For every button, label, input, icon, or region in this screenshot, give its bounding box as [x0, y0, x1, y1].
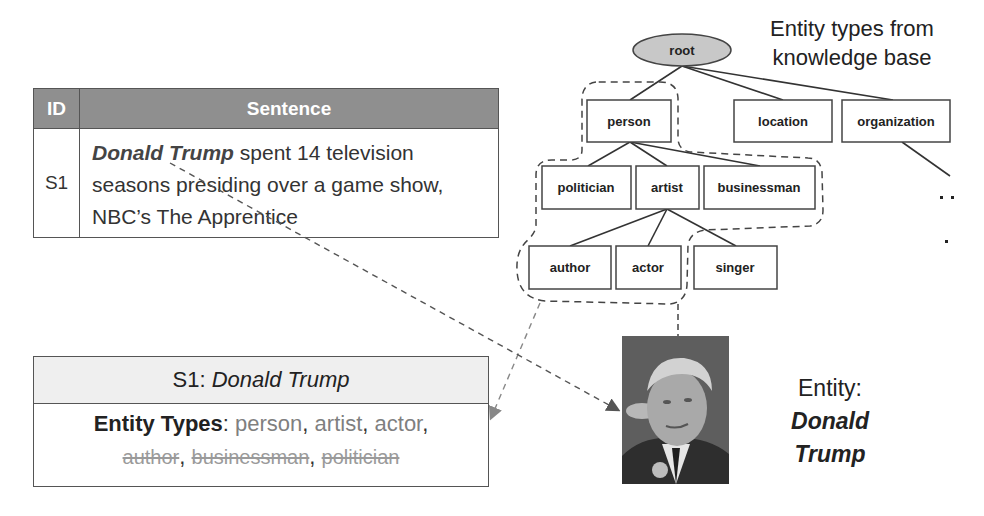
node-label: author — [550, 260, 590, 275]
kept-type-actor: actor — [375, 411, 423, 436]
kept-type-artist: artist — [315, 411, 363, 436]
node-label: businessman — [717, 180, 800, 195]
entity-photo — [622, 336, 729, 484]
entity-label: Entity: — [798, 375, 862, 401]
entity-types-label: Entity Types — [94, 411, 223, 436]
removed-type-author: author — [123, 446, 180, 468]
tree-node-singer: singer — [694, 246, 777, 289]
tree-node-organization: organization — [842, 100, 950, 142]
entity-name-line2: Trump — [770, 438, 890, 471]
entity-types-summary: S1: Donald Trump Entity Types: person, a… — [33, 356, 489, 487]
label-separator: : — [223, 411, 229, 436]
summary-header: S1: Donald Trump — [34, 357, 488, 404]
root-label: root — [669, 43, 695, 58]
summary-line-1: Entity Types: person, artist, actor, — [34, 407, 488, 440]
more-types-ellipsis — [940, 196, 954, 243]
node-label: organization — [857, 114, 934, 129]
tree-node-author: author — [529, 246, 611, 289]
tree-node-location: location — [734, 100, 832, 142]
summary-sentence-id: S1: — [173, 367, 206, 392]
node-label: actor — [632, 260, 664, 275]
entity-caption: Entity: Donald Trump — [770, 372, 890, 471]
tree-node-person: person — [587, 100, 671, 142]
portrait-icon — [622, 336, 729, 484]
summary-mention: Donald Trump — [212, 367, 350, 392]
node-label: singer — [715, 260, 754, 275]
tree-node-businessman: businessman — [704, 166, 815, 209]
removed-type-businessman: businessman — [192, 446, 310, 468]
tree-node-actor: actor — [616, 246, 681, 289]
tree-node-root: root — [633, 34, 731, 66]
removed-type-politician: politician — [322, 446, 400, 468]
types-to-summary-arrow — [491, 303, 540, 418]
node-label: person — [607, 114, 650, 129]
tree-node-politician: politician — [542, 166, 631, 209]
summary-body: Entity Types: person, artist, actor, aut… — [34, 407, 488, 474]
tree-node-artist: artist — [636, 166, 699, 209]
kept-type-person: person — [235, 411, 302, 436]
node-label: location — [758, 114, 808, 129]
summary-line-2: author, businessman, politician — [34, 440, 488, 474]
node-label: artist — [651, 180, 683, 195]
entity-name-line1: Donald — [770, 405, 890, 438]
node-label: politician — [557, 180, 614, 195]
